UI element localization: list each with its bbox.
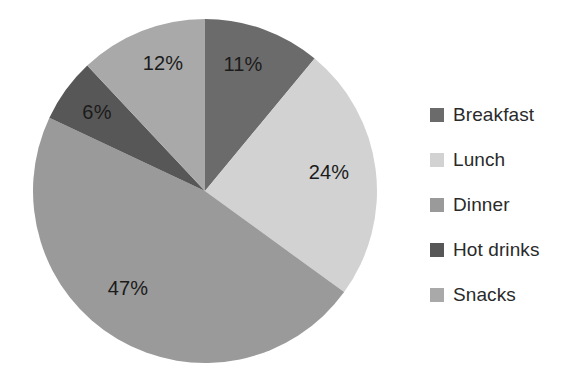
legend-label-snacks: Snacks: [453, 284, 516, 306]
legend-label-lunch: Lunch: [453, 149, 505, 171]
legend-item-dinner[interactable]: Dinner: [430, 186, 567, 223]
pie-data-label-breakfast: 11%: [223, 53, 262, 76]
pie-data-label-lunch: 24%: [309, 161, 350, 184]
pie-chart-figure: 11%24%47%6%12% BreakfastLunchDinnerHot d…: [0, 0, 567, 377]
pie-slice-group: [33, 19, 377, 363]
legend-swatch-lunch: [430, 153, 444, 167]
legend-swatch-dinner: [430, 198, 444, 212]
pie-data-label-hot-drinks: 6%: [82, 101, 111, 124]
pie-svg: [0, 0, 400, 377]
legend-label-dinner: Dinner: [453, 194, 510, 216]
legend-item-breakfast[interactable]: Breakfast: [430, 96, 567, 133]
pie-data-label-snacks: 12%: [143, 52, 184, 75]
legend-item-snacks[interactable]: Snacks: [430, 276, 567, 313]
legend-label-hot-drinks: Hot drinks: [453, 239, 540, 261]
pie-plot-area: 11%24%47%6%12%: [0, 0, 400, 377]
legend-item-hot-drinks[interactable]: Hot drinks: [430, 231, 567, 268]
legend-swatch-hot-drinks: [430, 243, 444, 257]
legend-label-breakfast: Breakfast: [453, 104, 534, 126]
legend-swatch-breakfast: [430, 108, 444, 122]
legend-item-lunch[interactable]: Lunch: [430, 141, 567, 178]
pie-data-label-dinner: 47%: [108, 277, 149, 300]
chart-legend: BreakfastLunchDinnerHot drinksSnacks: [430, 96, 567, 321]
legend-swatch-snacks: [430, 288, 444, 302]
